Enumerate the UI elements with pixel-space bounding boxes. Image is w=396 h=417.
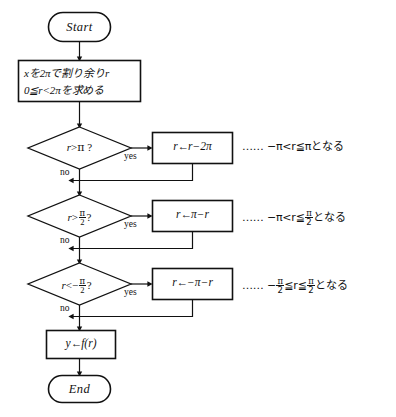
annotation-row2-fraction-numerator: π xyxy=(305,209,312,218)
process-reduce-line2: 0≦r<2πを求める xyxy=(24,85,104,96)
process-reduce-line1: xを2πで割り余りr xyxy=(24,68,109,79)
decision3-question-mark: ? xyxy=(87,279,92,291)
decision1-rhs: π xyxy=(77,141,84,154)
decision3-fraction: π2 xyxy=(79,277,87,296)
process-reduce-line2-text: 0≦r<2πを求める xyxy=(24,84,104,96)
action1-arrow-icon: ← xyxy=(178,140,189,152)
connector-action1-return xyxy=(71,164,193,181)
action3-label: r←−π−r xyxy=(152,277,233,289)
decision2-fraction-denominator: 2 xyxy=(79,217,87,227)
decision2-no-label: no xyxy=(60,236,70,246)
annotation-row1-suffix: となる xyxy=(311,140,343,153)
decision3-fraction-denominator: 2 xyxy=(79,285,87,295)
assign-y-label: y←f(r) xyxy=(46,338,116,350)
annotation-row1-dots: …… xyxy=(242,140,264,153)
decision2-fraction: π2 xyxy=(79,209,87,228)
annotation-row2-fraction: π2 xyxy=(305,209,312,228)
decision3-fraction-numerator: π xyxy=(79,277,87,286)
decision1-label: r>π ? xyxy=(28,142,131,153)
annotation-row2-fraction-denominator: 2 xyxy=(305,217,312,227)
annotation-row3-fraction-left-numerator: π xyxy=(276,277,283,286)
decision3-sign: − xyxy=(72,279,78,291)
assign-y-arrow-icon: ← xyxy=(71,337,82,349)
annotation-row3: …… −π2≦r≦π2となる xyxy=(242,277,347,296)
annotation-row3-middle: ≦r≦ xyxy=(284,279,306,292)
end-terminal-label: End xyxy=(0,383,159,396)
decision2-question-mark: ? xyxy=(87,211,92,223)
decision1-question-mark: ? xyxy=(87,141,92,153)
action3-expression: −π−r xyxy=(187,276,213,288)
decision2-operator: > xyxy=(72,211,78,223)
annotation-row1: …… −π<r≦πとなる xyxy=(242,141,344,152)
start-terminal-label: Start xyxy=(0,21,159,34)
action2-expression: π−r xyxy=(191,208,209,220)
annotation-row3-suffix: となる xyxy=(315,279,347,292)
decision2-label: r>π2? xyxy=(28,209,131,228)
annotation-row3-dots: …… xyxy=(242,279,264,292)
annotation-row1-range: −π<r≦π xyxy=(267,140,311,153)
annotation-row2-range: −π<r≦ xyxy=(267,211,305,224)
assign-y-expression: f(r) xyxy=(81,337,96,349)
action1-expression: r−2π xyxy=(188,140,212,152)
flowchart-canvas: Start xを2πで割り余りr 0≦r<2πを求める r>π ? r>π2? … xyxy=(0,0,396,417)
annotation-row3-fraction-right-denominator: 2 xyxy=(307,285,314,295)
annotation-row3-fraction-left-denominator: 2 xyxy=(276,285,283,295)
action1-label: r←r−2π xyxy=(152,141,233,153)
annotation-row2-suffix: となる xyxy=(313,211,345,224)
annotation-row2-dots: …… xyxy=(242,211,264,224)
action3-arrow-icon: ← xyxy=(177,276,188,288)
decision2-fraction-numerator: π xyxy=(79,209,87,218)
annotation-row3-fraction-right-numerator: π xyxy=(307,277,314,286)
annotation-row3-sign: − xyxy=(267,279,276,292)
decision1-yes-label: yes xyxy=(124,152,137,162)
annotation-row2: …… −π<r≦π2となる xyxy=(242,209,346,228)
action2-arrow-icon: ← xyxy=(180,208,191,220)
decision2-yes-label: yes xyxy=(124,220,137,230)
connector-action2-return xyxy=(71,232,193,249)
annotation-row3-fraction-left: π2 xyxy=(276,277,283,296)
action2-label: r←π−r xyxy=(152,209,233,221)
decision3-no-label: no xyxy=(60,304,70,314)
decision1-no-label: no xyxy=(60,168,70,178)
decision3-label: r<−π2? xyxy=(22,277,131,296)
decision3-yes-label: yes xyxy=(124,288,137,298)
process-reduce-line1-text: xを2πで割り余りr xyxy=(24,67,109,79)
annotation-row3-fraction-right: π2 xyxy=(307,277,314,296)
connector-action3-return xyxy=(71,300,193,317)
